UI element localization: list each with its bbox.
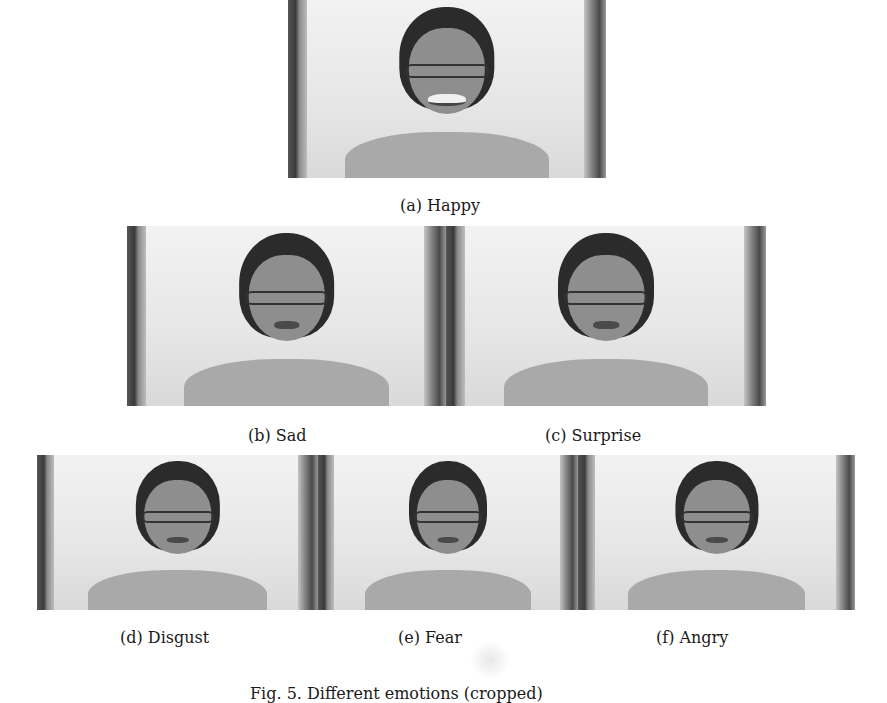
glasses	[564, 291, 647, 305]
torso	[504, 359, 709, 406]
torso	[628, 570, 805, 610]
mouth	[428, 94, 466, 106]
shelf-right	[298, 455, 318, 610]
shelf-left	[127, 226, 146, 406]
shelf-left	[288, 0, 307, 178]
shelf-left	[318, 455, 334, 610]
torso	[184, 359, 388, 406]
mouth	[274, 321, 300, 328]
subcaption-c: (c) Surprise	[545, 426, 641, 445]
photo-happy	[288, 0, 606, 178]
shelf-left	[446, 226, 465, 406]
photo-disgust	[37, 455, 318, 610]
scan-artifact	[470, 640, 510, 680]
glasses	[141, 511, 214, 523]
torso	[345, 132, 549, 178]
photo-fear	[318, 455, 578, 610]
photo-surprise	[446, 226, 766, 406]
subcaption-a: (a) Happy	[400, 196, 480, 215]
glasses	[414, 511, 482, 523]
torso	[365, 570, 531, 610]
subcaption-b: (b) Sad	[248, 426, 307, 445]
photo-angry	[578, 455, 855, 610]
mouth	[166, 537, 188, 543]
glasses	[406, 64, 489, 78]
subcaption-e: (e) Fear	[398, 628, 462, 647]
shelf-left	[37, 455, 54, 610]
mouth	[593, 321, 619, 328]
glasses	[245, 291, 328, 305]
shelf-right	[560, 455, 578, 610]
shelf-left	[578, 455, 595, 610]
mouth	[705, 537, 727, 543]
subcaption-f: (f) Angry	[656, 628, 728, 647]
subcaption-d: (d) Disgust	[120, 628, 209, 647]
figure-caption: Fig. 5. Different emotions (cropped)	[250, 684, 543, 703]
shelf-right	[836, 455, 855, 610]
photo-sad	[127, 226, 446, 406]
shelf-right	[584, 0, 606, 178]
shelf-right	[424, 226, 446, 406]
mouth	[438, 537, 459, 543]
glasses	[680, 511, 752, 523]
shelf-right	[744, 226, 766, 406]
torso	[88, 570, 268, 610]
